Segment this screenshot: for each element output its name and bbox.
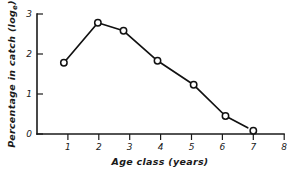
line-chart-svg: 0 1 2 3 1 2 3 4 5 6 7 8: [0, 0, 307, 170]
y-tick-label-1: 1: [26, 89, 32, 99]
chart-figure: 0 1 2 3 1 2 3 4 5 6 7 8: [0, 0, 307, 170]
data-point-3: [120, 28, 126, 34]
x-axis-title: Age class (years): [111, 156, 209, 167]
data-point-1: [61, 60, 67, 66]
data-point-7: [250, 128, 256, 134]
y-tick-label-0: 0: [26, 129, 32, 139]
y-axis-title-close: ): [6, 0, 17, 6]
x-tick-label-5: 5: [189, 142, 195, 152]
chart-background: [0, 0, 307, 170]
y-tick-label-3: 3: [26, 9, 32, 19]
x-tick-label-7: 7: [250, 142, 256, 152]
x-tick-label-6: 6: [220, 142, 226, 152]
x-tick-label-4: 4: [158, 142, 164, 152]
data-point-4: [154, 58, 160, 64]
x-tick-label-1: 1: [65, 142, 71, 152]
x-tick-label-8: 8: [281, 142, 287, 152]
y-axis-title-main: Percentage in catch (log: [6, 10, 17, 148]
data-point-2: [95, 20, 101, 26]
y-tick-label-2: 2: [26, 49, 32, 59]
x-tick-label-3: 3: [127, 142, 133, 152]
x-tick-label-2: 2: [96, 142, 102, 152]
data-point-5: [190, 82, 196, 88]
data-point-6: [222, 113, 228, 119]
